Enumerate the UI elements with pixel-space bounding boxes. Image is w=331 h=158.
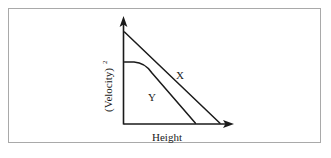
y-axis-label-group: (Velocity) 2: [101, 60, 115, 112]
figure-root: X Y Height (Velocity) 2: [0, 0, 331, 158]
series-line-x: [125, 32, 221, 123]
series-label-x: X: [176, 69, 184, 81]
series-label-y: Y: [148, 91, 156, 103]
plot-area: X Y Height (Velocity) 2: [0, 0, 331, 158]
series-line-y: [125, 62, 196, 123]
y-axis-label-superscript: 2: [101, 60, 109, 64]
x-axis-label: Height: [152, 131, 182, 143]
y-axis-label: (Velocity): [102, 68, 115, 112]
